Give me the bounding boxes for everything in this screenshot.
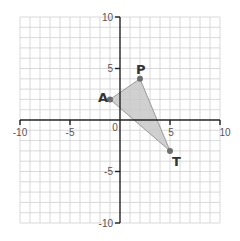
y-tick-m5: -5 [104, 166, 113, 177]
x-tick-m5: -5 [66, 127, 75, 138]
y-tick-p10: 10 [102, 12, 114, 23]
x-tick-p10: 10 [219, 127, 231, 138]
x-tick-0: 0 [112, 122, 118, 133]
y-tick-p5: 5 [107, 63, 113, 74]
label-T: T [172, 154, 181, 169]
coordinate-plane: -10 -5 0 5 10 10 5 -5 -10 A P T [0, 0, 240, 241]
label-P: P [136, 62, 146, 77]
label-A: A [98, 90, 108, 105]
x-tick-p5: 5 [168, 127, 174, 138]
point-T [167, 148, 173, 154]
y-tick-m10: -10 [99, 218, 114, 229]
x-tick-m10: -10 [13, 127, 28, 138]
